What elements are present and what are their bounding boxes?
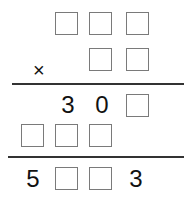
result-digit-2-box[interactable]	[55, 167, 78, 190]
partial1-digit-1: 3	[56, 93, 80, 117]
partial1-digit-2: 0	[90, 93, 114, 117]
result-digit-3-box[interactable]	[89, 167, 112, 190]
multiply-sign: ×	[33, 60, 45, 80]
partial2-digit-3-box[interactable]	[89, 124, 112, 147]
result-digit-1: 5	[21, 167, 45, 191]
multiplicand-digit-3-box[interactable]	[126, 12, 149, 35]
partial1-digit-3-box[interactable]	[126, 94, 149, 117]
multiplier-digit-1-box[interactable]	[89, 48, 112, 71]
multiplicand-digit-1-box[interactable]	[55, 12, 78, 35]
partial2-digit-2-box[interactable]	[55, 124, 78, 147]
product-line-1	[12, 83, 184, 85]
partial2-digit-1-box[interactable]	[21, 124, 44, 147]
multiplicand-digit-2-box[interactable]	[89, 12, 112, 35]
multiplier-digit-2-box[interactable]	[126, 48, 149, 71]
sum-line	[8, 156, 184, 158]
result-digit-4: 3	[124, 167, 148, 191]
